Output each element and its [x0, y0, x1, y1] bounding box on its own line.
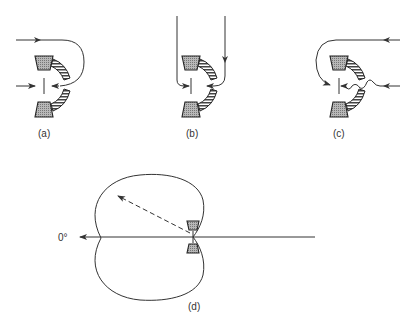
- mic-body-bottom: [35, 102, 53, 117]
- wavy-delay-path: [341, 80, 400, 89]
- panel-d: 0° (d): [58, 174, 315, 312]
- mic-icon-top: [187, 221, 199, 230]
- mic-arm-top: [51, 59, 70, 80]
- panel-label-a: (a): [38, 128, 50, 139]
- panel-label-d: (d): [188, 301, 200, 312]
- mic-arm-bottom: [198, 89, 217, 111]
- polar-radius-dashed: [118, 196, 190, 233]
- diagram-canvas: (a) (b) (c) 0° (d): [0, 0, 418, 323]
- mic-arm-bottom: [51, 89, 70, 111]
- mic-body-bottom: [330, 102, 348, 117]
- mic-body-top: [35, 56, 53, 70]
- mic-body-top: [330, 56, 348, 70]
- mic-icon-bottom: [187, 244, 199, 253]
- panel-label-c: (c): [333, 128, 345, 139]
- mic-body-bottom: [182, 102, 200, 117]
- mic-arm-top: [346, 59, 365, 80]
- left-path: [177, 16, 184, 86]
- zero-degree-label: 0°: [58, 232, 68, 243]
- panel-b: (b): [177, 16, 228, 139]
- mic-arm-top: [198, 59, 217, 80]
- panel-a: (a): [16, 37, 84, 139]
- mic-body-top: [182, 56, 200, 70]
- mic-arm-bottom: [346, 89, 365, 111]
- panel-c: (c): [316, 37, 400, 139]
- panel-label-b: (b): [186, 128, 198, 139]
